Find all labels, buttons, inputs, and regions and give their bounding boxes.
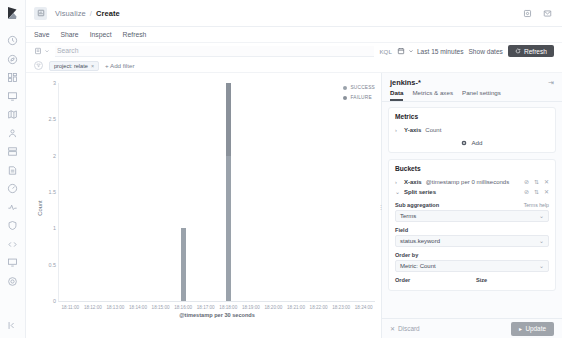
discard-label: Discard	[398, 325, 420, 332]
x-axis-tick: 18:12:00	[84, 305, 102, 310]
x-axis-tick: 18:23:00	[332, 305, 350, 310]
buckets-card: Buckets › X-axis @timestamp per 0 millis…	[388, 159, 556, 291]
x-axis-tick: 18:22:00	[310, 305, 328, 310]
machine-learning-icon[interactable]	[6, 127, 19, 140]
collapse-panel-icon[interactable]: ⇥	[548, 79, 554, 87]
dataset-selector-button[interactable]	[34, 47, 50, 55]
chevron-right-icon[interactable]: ›	[395, 179, 400, 185]
menu-refresh[interactable]: Refresh	[123, 31, 147, 38]
chart-bar[interactable]	[226, 83, 231, 301]
menu-inspect[interactable]: Inspect	[90, 31, 112, 38]
update-button[interactable]: ▸ Update	[511, 322, 554, 336]
show-dates-button[interactable]: Show dates	[468, 48, 502, 55]
bucket-row-prefix: Split series	[404, 189, 436, 195]
metric-row-value: Count	[425, 127, 441, 133]
x-axis-tick: 18:18:00	[219, 305, 237, 310]
size-label: Size	[476, 277, 549, 283]
x-axis-tick: 18:20:00	[264, 305, 282, 310]
filter-options-icon[interactable]	[34, 61, 43, 70]
canvas-icon[interactable]	[6, 90, 19, 103]
bucket-row-prefix: X-axis	[404, 179, 422, 185]
disable-aggregation-icon[interactable]: ⊘	[524, 179, 529, 185]
y-axis-tick: 2	[53, 153, 56, 159]
drag-handle-icon[interactable]: ⇅	[534, 189, 539, 195]
refresh-button-label: Refresh	[524, 48, 547, 55]
tab-data[interactable]: Data	[390, 89, 403, 101]
infrastructure-icon[interactable]	[6, 145, 19, 158]
monitoring-icon[interactable]	[6, 256, 19, 269]
kibana-logo[interactable]	[0, 0, 26, 26]
drag-handle-icon[interactable]: ⇅	[534, 179, 539, 185]
tab-panel-settings[interactable]: Panel settings	[462, 89, 501, 101]
x-axis-tick: 18:13:00	[106, 305, 124, 310]
sub-aggregation-select[interactable]: Terms ⌄	[395, 210, 549, 222]
y-axis-tick: 1.5	[49, 189, 57, 195]
field-select[interactable]: status.keyword ⌄	[395, 235, 549, 247]
metric-row-y-axis[interactable]: › Y-axis Count	[395, 125, 549, 135]
legend-item-success[interactable]: SUCCESS	[343, 85, 375, 90]
order-label: Order	[395, 277, 468, 283]
chevron-down-icon[interactable]: ⌄	[395, 189, 400, 195]
visualization-editor-panel: ⋮ jenkins-* ⇥ Data Metrics & axes Panel …	[381, 73, 562, 338]
x-axis-tick: 18:11:00	[62, 305, 80, 310]
update-icon: ▸	[519, 325, 522, 333]
discover-icon[interactable]	[6, 53, 19, 66]
chevron-down-icon: ⌄	[539, 213, 544, 219]
recently-viewed-icon[interactable]	[6, 34, 19, 47]
field-value: status.keyword	[400, 238, 440, 244]
x-axis-tick: 18:15:00	[152, 305, 170, 310]
gear-icon[interactable]	[521, 7, 534, 20]
siem-icon[interactable]	[6, 219, 19, 232]
app-header: Visualize / Create	[26, 0, 562, 27]
menu-share[interactable]: Share	[61, 31, 79, 38]
add-metric-label: Add	[471, 139, 482, 146]
sub-aggregation-label: Sub aggregation	[395, 202, 439, 208]
refresh-button[interactable]: Refresh	[508, 45, 554, 57]
breadcrumb-root[interactable]: Visualize	[55, 9, 86, 18]
tab-metrics-axes[interactable]: Metrics & axes	[412, 89, 453, 101]
remove-aggregation-icon[interactable]: ✕	[544, 179, 549, 185]
chart-bar[interactable]	[181, 228, 186, 301]
metrics-card: Metrics › Y-axis Count Add	[388, 107, 556, 153]
logs-icon[interactable]	[6, 164, 19, 177]
legend-swatch-success	[343, 86, 347, 90]
query-language-label[interactable]: KQL	[379, 48, 391, 55]
filter-pill-label: project: relate	[54, 63, 88, 69]
discard-button[interactable]: ✕ Discard	[390, 325, 420, 333]
editor-tabs: Data Metrics & axes Panel settings	[382, 89, 562, 102]
legend-item-failure[interactable]: FAILURE	[343, 95, 375, 100]
management-gear-icon[interactable]	[6, 275, 19, 288]
chevron-right-icon[interactable]: ›	[395, 127, 400, 133]
disable-aggregation-icon[interactable]: ⊘	[524, 189, 529, 195]
add-metric-button[interactable]: Add	[395, 135, 549, 147]
sub-aggregation-label-row: Sub aggregation Terms help	[395, 197, 549, 210]
date-range-label: Last 15 minutes	[417, 48, 464, 55]
add-filter-button[interactable]: + Add filter	[105, 62, 134, 69]
bucket-row-split-series[interactable]: ⌄ Split series ⊘ ⇅ ✕	[395, 187, 549, 197]
bucket-row-x-axis[interactable]: › X-axis @timestamp per 0 milliseconds ⊘…	[395, 177, 549, 187]
y-axis-tick: 1	[53, 225, 56, 231]
dashboard-icon[interactable]	[6, 71, 19, 84]
remove-aggregation-icon[interactable]: ✕	[544, 189, 549, 195]
query-bar: Search KQL Last 15 minutes Show dates Re…	[26, 43, 562, 59]
filter-pill-remove-icon[interactable]: ×	[91, 63, 94, 69]
maps-icon[interactable]	[6, 108, 19, 121]
bar-chart: Count 00.511.522.5318:11:0018:12:0018:13…	[28, 77, 379, 338]
order-by-select[interactable]: Metric: Count ⌄	[395, 260, 549, 272]
collapse-nav-icon[interactable]	[6, 319, 19, 332]
uptime-icon[interactable]	[6, 201, 19, 214]
date-picker[interactable]: Last 15 minutes	[397, 47, 464, 55]
x-axis-tick: 18:17:00	[197, 305, 215, 310]
menu-save[interactable]: Save	[34, 31, 50, 38]
help-icon[interactable]	[541, 7, 554, 20]
filter-pill-project[interactable]: project: relate ×	[49, 61, 99, 71]
breadcrumb-current: Create	[96, 9, 120, 18]
editor-body: Metrics › Y-axis Count Add Buckets › X-a…	[382, 102, 562, 318]
apm-icon[interactable]	[6, 182, 19, 195]
bar-segment-success	[226, 156, 231, 301]
metric-row-prefix: Y-axis	[404, 127, 421, 133]
legend-swatch-failure	[343, 96, 347, 100]
dev-tools-icon[interactable]	[6, 238, 19, 251]
terms-help-link[interactable]: Terms help	[524, 202, 549, 208]
search-input[interactable]: Search	[55, 46, 374, 57]
